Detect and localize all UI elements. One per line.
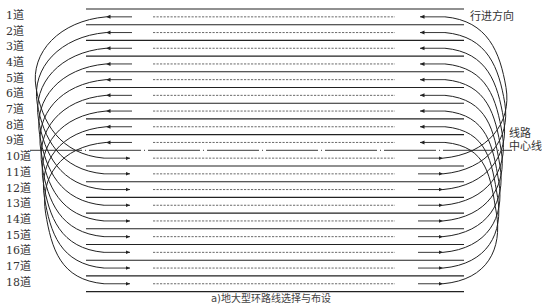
lane-label: 5道 [6,73,24,85]
lane-label: 1道 [6,10,24,22]
lane-label: 13道 [6,198,31,210]
lane-label: 3道 [6,41,24,53]
lane-label: 7道 [6,104,24,116]
lane-label: 12道 [6,183,31,195]
lane-label: 4道 [6,57,24,69]
lane-label: 16道 [6,245,31,257]
lane-label: 17道 [6,261,31,273]
lane-label: 18道 [6,277,31,289]
direction-label: 行进方向 [470,10,514,23]
lane-label: 11道 [6,167,31,179]
centerline-label-line1: 线路 [509,127,531,140]
lane-label: 14道 [6,214,31,226]
centerline-label-line2: 中心线 [509,140,542,153]
lane-label: 9道 [6,135,24,147]
lane-label: 6道 [6,88,24,100]
lane-label: 8道 [6,120,24,132]
lane-label: 10道 [6,151,31,163]
lane-label: 15道 [6,230,31,242]
figure-caption: a)地大型环路线选择与布设 [0,290,542,305]
lane-label: 2道 [6,26,24,38]
